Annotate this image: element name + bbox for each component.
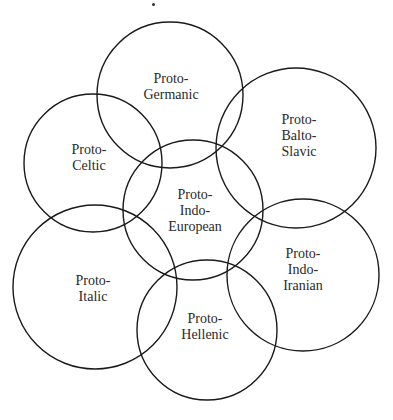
label-italic: Proto-Italic: [76, 273, 111, 305]
label-pie: Proto-Indo-European: [168, 187, 222, 235]
label-line: Proto-: [181, 311, 228, 327]
label-line: Indo-: [283, 262, 323, 278]
label-celtic: Proto-Celtic: [72, 142, 107, 174]
label-line: Iranian: [283, 278, 323, 294]
label-line: Proto-: [168, 187, 222, 203]
label-indo-iranian: Proto-Indo-Iranian: [283, 246, 323, 294]
label-line: Slavic: [282, 144, 317, 160]
label-line: Proto-: [143, 71, 198, 87]
label-line: Indo-: [168, 203, 222, 219]
label-line: Hellenic: [181, 327, 228, 343]
label-line: Germanic: [143, 87, 198, 103]
stray-mark: [152, 3, 155, 6]
label-line: Balto-: [282, 128, 317, 144]
label-balto-slavic: Proto-Balto-Slavic: [282, 112, 317, 160]
label-line: Proto-: [282, 112, 317, 128]
label-germanic: Proto-Germanic: [143, 71, 198, 103]
label-line: European: [168, 219, 222, 235]
label-hellenic: Proto-Hellenic: [181, 311, 228, 343]
label-line: Proto-: [76, 273, 111, 289]
label-line: Italic: [76, 289, 111, 305]
label-line: Celtic: [72, 158, 107, 174]
label-line: Proto-: [283, 246, 323, 262]
label-line: Proto-: [72, 142, 107, 158]
